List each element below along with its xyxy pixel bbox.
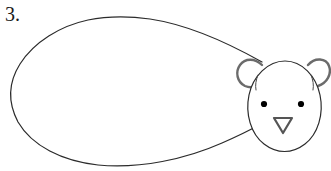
drawing-canvas: 3. bear-step-3 (0, 0, 331, 171)
eye-right (298, 101, 304, 107)
body-outline (11, 17, 262, 166)
bear-illustration: bear-step-3 (0, 0, 331, 171)
head-outline (248, 61, 321, 152)
eye-left (261, 101, 267, 107)
